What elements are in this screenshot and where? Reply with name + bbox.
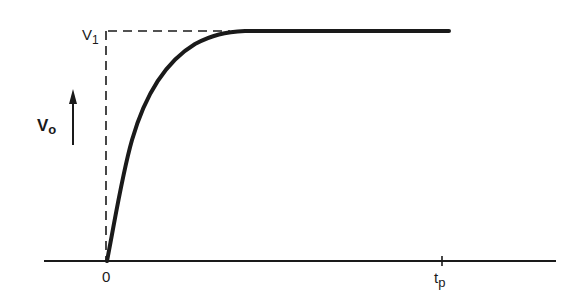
- step-response-diagram: V1 Vo 0 tp: [0, 0, 588, 303]
- origin-label: 0: [102, 268, 110, 285]
- vo-arrow-head-icon: [69, 89, 77, 104]
- tp-label: tp: [434, 269, 445, 290]
- vo-label: Vo: [37, 116, 56, 137]
- v1-label: V1: [82, 26, 99, 47]
- response-curve: [107, 31, 449, 261]
